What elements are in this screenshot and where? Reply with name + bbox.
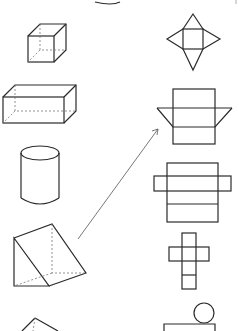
top-partial-shape xyxy=(95,2,120,4)
net-square-pyramid[interactable] xyxy=(167,14,220,70)
shape-cylinder[interactable] xyxy=(21,146,59,204)
net-triangular-prism[interactable] xyxy=(157,89,232,144)
connection-arrow xyxy=(78,129,158,239)
worksheet-canvas xyxy=(0,0,239,331)
shape-cuboid[interactable] xyxy=(3,85,76,123)
net-cylinder[interactable] xyxy=(164,303,215,331)
net-cuboid[interactable] xyxy=(154,163,231,222)
shape-pyramid[interactable] xyxy=(22,318,58,331)
net-cube[interactable] xyxy=(169,233,209,289)
shape-cube[interactable] xyxy=(28,24,66,62)
shape-triangular-prism[interactable] xyxy=(14,224,86,286)
